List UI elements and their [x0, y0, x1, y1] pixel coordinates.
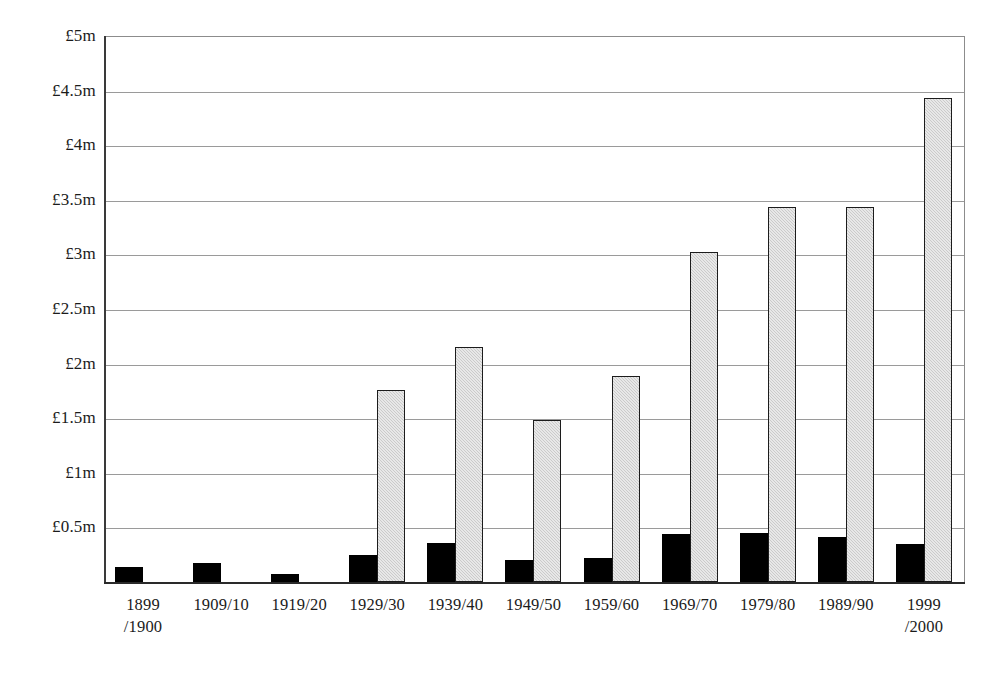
bar-series-1: [896, 544, 924, 582]
bar-group: [885, 36, 963, 582]
bar-series-2: [846, 207, 874, 582]
bar-series-2: [612, 376, 640, 582]
bar-series-1: [584, 558, 612, 582]
bar-series-1: [505, 560, 533, 582]
bar-chart: £0.5m£1m£1.5m£2m£2.5m£3m£3.5m£4m£4.5m£5m…: [0, 0, 990, 673]
bar-group: [573, 36, 651, 582]
y-tick-label: £4.5m: [4, 82, 96, 99]
bar-series-2: [768, 207, 796, 582]
bar-series-1: [818, 537, 846, 582]
bar-group: [182, 36, 260, 582]
y-tick-label: £1m: [4, 464, 96, 481]
bar-series-1: [740, 533, 768, 582]
y-tick-label: £2.5m: [4, 300, 96, 317]
bar-series-1: [193, 563, 221, 582]
bar-group: [494, 36, 572, 582]
bar-group: [104, 36, 182, 582]
bar-series-1: [115, 567, 143, 582]
bar-series-1: [349, 555, 377, 582]
bar-series-2: [455, 347, 483, 582]
bar-group: [651, 36, 729, 582]
y-tick-label: £0.5m: [4, 518, 96, 535]
bar-series-2: [690, 252, 718, 582]
x-axis-line: [104, 582, 965, 584]
bar-group: [416, 36, 494, 582]
y-tick-label: £3.5m: [4, 191, 96, 208]
y-tick-label: £1.5m: [4, 409, 96, 426]
y-axis-tick-labels: £0.5m£1m£1.5m£2m£2.5m£3m£3.5m£4m£4.5m£5m: [0, 0, 96, 673]
x-tick-label: 1999 /2000: [877, 594, 971, 638]
x-axis-tick-labels: 1899 /19001909/101919/201929/301939/4019…: [104, 594, 963, 664]
bar-series-2: [377, 390, 405, 582]
bar-series-2: [924, 98, 952, 582]
bars-layer: [104, 36, 963, 582]
bar-series-2: [533, 420, 561, 582]
bar-group: [729, 36, 807, 582]
y-tick-label: £2m: [4, 355, 96, 372]
y-tick-label: £3m: [4, 245, 96, 262]
bar-series-1: [662, 534, 690, 582]
bar-group: [807, 36, 885, 582]
bar-series-1: [427, 543, 455, 582]
bar-series-1: [271, 574, 299, 582]
y-tick-label: £5m: [4, 27, 96, 44]
bar-group: [260, 36, 338, 582]
bar-group: [338, 36, 416, 582]
y-tick-label: £4m: [4, 136, 96, 153]
